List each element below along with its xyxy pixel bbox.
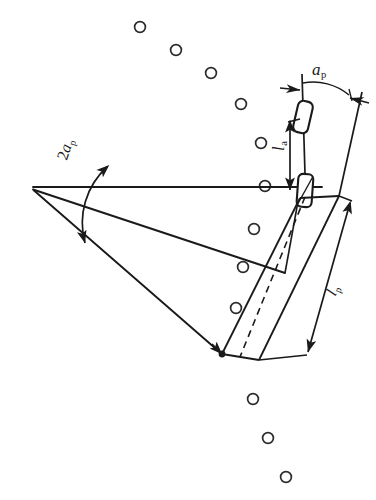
circle-marker xyxy=(248,394,259,405)
circle-marker xyxy=(256,138,267,149)
apex-fan-lines xyxy=(33,187,322,355)
arm-edge-right xyxy=(259,196,339,360)
fan-line-middle xyxy=(33,190,285,274)
angle-arc-2ap xyxy=(82,167,107,244)
circle-marker xyxy=(231,303,242,314)
dimension-extension-lp-top xyxy=(339,196,352,201)
circle-marker xyxy=(260,181,271,192)
pad-body-upper xyxy=(292,100,314,135)
label-ap-symbol: a xyxy=(312,60,321,79)
circle-marker xyxy=(171,45,182,56)
sector-chord-upper xyxy=(285,196,299,273)
arm-edge-left xyxy=(222,198,300,354)
label-length-la: la xyxy=(269,141,289,151)
pivot-pad-upper xyxy=(292,100,314,135)
circle-marker xyxy=(238,262,249,273)
fan-line-lower xyxy=(34,191,223,356)
label-la-subscript: a xyxy=(278,141,289,146)
circle-marker xyxy=(206,68,217,79)
label-ap-subscript: p xyxy=(321,69,326,80)
circle-marker xyxy=(249,224,260,235)
diagram-canvas: ap la lp 2ap xyxy=(0,0,376,500)
circle-marker xyxy=(281,472,292,483)
circle-marker xyxy=(263,433,274,444)
pivot-pad-lower xyxy=(296,174,313,208)
dimension-arrow-lp xyxy=(308,203,350,352)
swing-arm xyxy=(222,196,339,360)
angle-arrow-left-ap xyxy=(280,88,300,90)
circle-marker-group xyxy=(135,22,292,483)
angle-tick-ap xyxy=(349,89,352,101)
circle-marker xyxy=(135,22,146,33)
label-angle-ap: ap xyxy=(312,60,326,80)
dimension-extension-lp-bottom xyxy=(259,355,307,360)
joint-leader-arrow xyxy=(212,344,222,354)
angle-arc-ap xyxy=(303,82,349,95)
label-la-symbol: l xyxy=(269,146,288,151)
arm-reference-line-upper xyxy=(339,92,362,196)
circle-marker xyxy=(236,99,247,110)
